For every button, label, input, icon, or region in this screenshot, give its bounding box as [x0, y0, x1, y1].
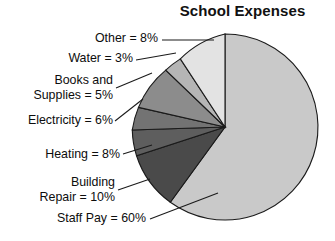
pie-label-building-repair: Building Repair = 10%: [0, 175, 115, 205]
pie-label-water: Water = 3%: [0, 51, 133, 66]
pie-label-staff-pay: Staff Pay = 60%: [0, 211, 146, 226]
pie-label-other: Other = 8%: [0, 31, 158, 46]
pie-label-books-and-supplies: Books and Supplies = 5%: [0, 73, 113, 103]
leader-line-books-and-supplies: [116, 73, 152, 88]
pie-label-heating: Heating = 8%: [0, 147, 120, 162]
leader-line-building-repair: [118, 179, 150, 190]
pie-chart-figure: School Expenses Other = 8% Water = 3% Bo…: [0, 0, 335, 241]
pie-label-building-line-1: Building: [0, 175, 115, 190]
pie-label-books-line-2: Supplies = 5%: [0, 88, 113, 103]
leader-line-water: [136, 53, 176, 60]
pie-label-books-line-1: Books and: [0, 73, 113, 88]
pie-label-building-line-2: Repair = 10%: [0, 190, 115, 205]
pie-label-electricity: Electricity = 6%: [0, 113, 113, 128]
